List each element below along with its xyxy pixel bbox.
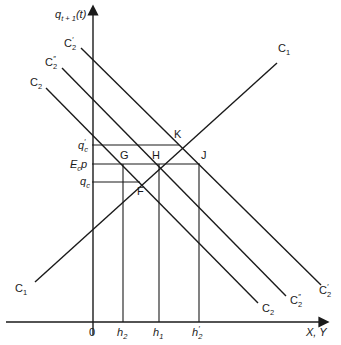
x-axis-label: X, Y bbox=[305, 326, 327, 338]
tick-qc-prime: qc′ bbox=[78, 137, 88, 154]
diagram-canvas: qt + 1(t) X, Y 0 C1 C1 C2′ C2″ C2 C2 C2″… bbox=[0, 0, 341, 345]
tick-h2: h2 bbox=[117, 326, 128, 341]
label-c2-bottom: C2 bbox=[262, 302, 274, 317]
tick-h2-prime: h2′ bbox=[192, 324, 203, 341]
label-c2-prime-bottom: C2′ bbox=[319, 282, 331, 299]
y-axis-label: qt + 1(t) bbox=[55, 8, 87, 23]
label-c1-bottom: C1 bbox=[15, 282, 27, 297]
point-k: K bbox=[174, 128, 182, 140]
tick-qc: qc bbox=[80, 175, 90, 190]
curve-c2-prime bbox=[81, 48, 321, 285]
label-c1-top: C1 bbox=[278, 42, 290, 57]
point-h: H bbox=[152, 149, 160, 161]
point-j: J bbox=[201, 149, 207, 161]
tick-h1: h1 bbox=[153, 326, 163, 341]
label-c2-prime-top: C2′ bbox=[64, 35, 76, 52]
tick-ecp: Ecp bbox=[70, 158, 87, 173]
point-f: F bbox=[137, 185, 144, 197]
point-g: G bbox=[120, 149, 129, 161]
label-c2-top: C2 bbox=[30, 76, 42, 91]
curve-c2 bbox=[46, 88, 258, 303]
origin-label: 0 bbox=[89, 326, 95, 338]
label-c2-double-prime-top: C2″ bbox=[45, 54, 57, 71]
label-c2-double-prime-bottom: C2″ bbox=[290, 292, 302, 309]
